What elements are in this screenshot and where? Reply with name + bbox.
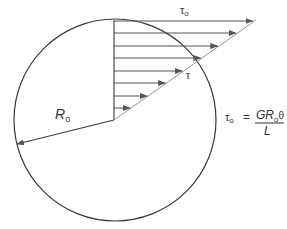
torsion-diagram: τo τ Ro τo = GRoθ L [0,0,287,229]
svg-text:τo: τo [225,111,234,125]
shear-stress-arrows [114,21,253,108]
stress-envelope-line [114,20,256,120]
svg-text:=: = [243,110,250,124]
radius-label: Ro [55,106,70,124]
svg-text:GRoθ: GRoθ [256,108,284,124]
shear-stress-formula: τo = GRoθ L [225,108,284,138]
tau-o-label: τo [180,4,189,18]
svg-text:L: L [264,124,271,138]
shaft-cross-section [14,19,216,221]
tau-label: τ [186,70,190,81]
